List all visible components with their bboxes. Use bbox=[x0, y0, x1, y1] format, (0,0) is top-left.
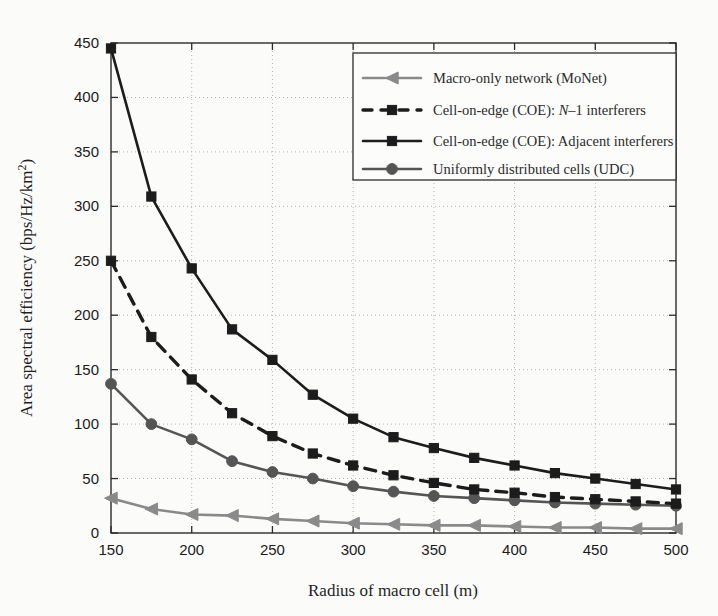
data-point-marker bbox=[429, 478, 438, 487]
data-point-marker bbox=[510, 461, 519, 470]
data-point-marker bbox=[550, 469, 559, 478]
y-axis-title: Area spectral efficiency (bps/Hz/km2) bbox=[15, 159, 36, 417]
legend-label: Cell-on-edge (COE): Adjacent interferers bbox=[433, 133, 674, 150]
data-point-marker bbox=[349, 461, 358, 470]
data-point-marker bbox=[106, 44, 115, 53]
legend-label: Cell-on-edge (COE): N–1 interferers bbox=[433, 102, 646, 119]
legend-label-text: Macro-only network (MoNet) bbox=[433, 70, 607, 87]
y-tick-label: 350 bbox=[74, 143, 99, 160]
legend-marker-circle-icon bbox=[387, 164, 398, 175]
area-spectral-efficiency-line-chart: 0501001502002503003504004501502002503003… bbox=[0, 0, 718, 616]
data-point-marker bbox=[389, 471, 398, 480]
x-tick-label: 400 bbox=[502, 541, 527, 558]
y-tick-label: 100 bbox=[74, 415, 99, 432]
legend-label: Macro-only network (MoNet) bbox=[433, 70, 607, 87]
y-tick-label: 400 bbox=[74, 88, 99, 105]
x-tick-label: 350 bbox=[421, 541, 446, 558]
legend-label-text: Cell-on-edge (COE): Adjacent interferers bbox=[433, 133, 674, 150]
data-point-marker bbox=[227, 409, 236, 418]
y-tick-label: 450 bbox=[74, 34, 99, 51]
x-axis-title: Radius of macro cell (m) bbox=[308, 581, 478, 600]
data-point-marker bbox=[186, 434, 197, 445]
legend-label-text: Uniformly distributed cells (UDC) bbox=[433, 161, 634, 178]
data-point-marker bbox=[106, 378, 117, 389]
x-tick-label: 150 bbox=[98, 541, 123, 558]
data-point-marker bbox=[591, 495, 600, 504]
y-tick-label: 150 bbox=[74, 361, 99, 378]
x-tick-label: 250 bbox=[260, 541, 285, 558]
data-point-marker bbox=[510, 488, 519, 497]
data-point-marker bbox=[147, 192, 156, 201]
y-tick-label: 300 bbox=[74, 197, 99, 214]
data-point-marker bbox=[268, 355, 277, 364]
data-point-marker bbox=[308, 449, 317, 458]
legend-label: Uniformly distributed cells (UDC) bbox=[433, 161, 634, 178]
y-tick-label: 200 bbox=[74, 306, 99, 323]
data-point-marker bbox=[429, 443, 438, 452]
data-point-marker bbox=[591, 474, 600, 483]
data-point-marker bbox=[227, 325, 236, 334]
y-axis-title-main: Area spectral efficiency (bps/Hz/km bbox=[17, 171, 36, 418]
x-tick-label: 200 bbox=[179, 541, 204, 558]
data-point-marker bbox=[349, 414, 358, 423]
y-tick-label: 250 bbox=[74, 252, 99, 269]
data-point-marker bbox=[348, 481, 359, 492]
data-point-marker bbox=[550, 492, 559, 501]
data-point-marker bbox=[106, 256, 115, 265]
data-point-marker bbox=[671, 485, 680, 494]
data-point-marker bbox=[470, 453, 479, 462]
data-point-marker bbox=[470, 485, 479, 494]
data-point-marker bbox=[267, 467, 278, 478]
data-point-marker bbox=[268, 431, 277, 440]
data-point-marker bbox=[227, 456, 238, 467]
x-tick-label: 450 bbox=[583, 541, 608, 558]
data-point-marker bbox=[428, 491, 439, 502]
data-point-marker bbox=[146, 419, 157, 430]
y-tick-label: 0 bbox=[91, 524, 99, 541]
x-tick-label: 500 bbox=[663, 541, 688, 558]
data-point-marker bbox=[308, 390, 317, 399]
y-tick-label: 50 bbox=[82, 470, 99, 487]
legend-marker-square-icon bbox=[387, 105, 396, 114]
data-point-marker bbox=[187, 375, 196, 384]
legend-label-text: Cell-on-edge (COE): bbox=[433, 102, 559, 119]
legend-marker-square-icon bbox=[387, 136, 396, 145]
legend-label-suffix: –1 interferers bbox=[567, 102, 646, 118]
data-point-marker bbox=[389, 433, 398, 442]
data-point-marker bbox=[631, 479, 640, 488]
data-point-marker bbox=[147, 332, 156, 341]
y-axis-title-tail: ) bbox=[17, 159, 36, 165]
data-point-marker bbox=[631, 497, 640, 506]
x-tick-label: 300 bbox=[341, 541, 366, 558]
data-point-marker bbox=[671, 499, 680, 508]
data-point-marker bbox=[187, 264, 196, 273]
chart-figure: 0501001502002503003504004501502002503003… bbox=[0, 0, 718, 616]
chart-legend: Macro-only network (MoNet)Cell-on-edge (… bbox=[353, 53, 676, 180]
data-point-marker bbox=[388, 486, 399, 497]
data-point-marker bbox=[307, 473, 318, 484]
